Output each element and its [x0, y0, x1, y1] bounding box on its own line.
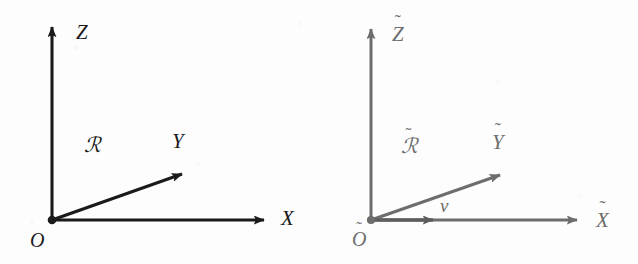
axis-label-y-tilde: Y ˜ — [492, 132, 504, 153]
origin-label-O-tilde: O ˜ — [352, 229, 366, 249]
axis-label-y: Y — [172, 131, 184, 152]
origin-label-O: O — [30, 230, 44, 250]
vector-label-v: v — [440, 196, 448, 215]
diagram-svg — [0, 0, 638, 264]
axis-label-z: Z — [76, 22, 88, 43]
axis-label-x-tilde: X ˜ — [596, 210, 609, 231]
frame-label-R: ℛ — [84, 135, 101, 156]
axis-label-x: X — [281, 208, 294, 229]
axis-label-z-tilde: Z ˜ — [392, 24, 404, 45]
figure-canvas: Z X Y ℛ O Z ˜ X ˜ Y ˜ ℛ ˜ — [0, 0, 638, 264]
y-axis-line — [52, 174, 182, 220]
frame-label-R-tilde: ℛ ˜ — [401, 136, 418, 157]
origin-dot-tilde — [367, 216, 375, 224]
origin-dot — [48, 216, 57, 225]
y-axis-tilde-line — [371, 175, 500, 220]
frame-R-tilde-axes — [367, 29, 577, 224]
frame-R-axes — [48, 27, 264, 224]
